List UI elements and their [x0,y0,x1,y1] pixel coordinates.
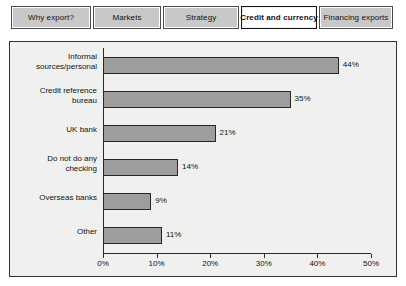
x-tick [157,254,158,258]
x-tick [264,254,265,258]
x-tick [210,254,211,258]
bar-value-label: 35% [295,94,311,103]
bar-row: Informalsources/personal44% [10,50,398,84]
bar-row: Overseas banks9% [10,186,398,220]
chart-panel: 0%10%20%30%40%50% Informalsources/person… [9,41,397,277]
x-tick-label: 40% [309,259,325,268]
bar-row: Do not do anychecking14% [10,152,398,186]
bar-value-label: 11% [166,230,181,239]
x-tick-label: 20% [202,259,218,268]
tab-why-export[interactable]: Why export? [12,7,90,28]
x-tick [317,254,318,258]
bar [103,91,291,108]
tab-credit-and-currency[interactable]: Credit and currency [242,7,316,28]
tab-label: Why export? [28,13,74,22]
x-tick [103,254,104,258]
bar-row: Other11% [10,220,398,254]
tab-bar: Why export? Markets Strategy Credit and … [0,0,406,34]
category-label: Other [0,227,97,237]
bar [103,227,162,244]
x-tick-label: 50% [363,259,379,268]
category-label: Informalsources/personal [0,52,97,72]
bar-chart: 0%10%20%30%40%50% Informalsources/person… [10,42,398,278]
bar-value-label: 44% [343,60,359,69]
tab-financing-exports[interactable]: Financing exports [320,7,392,28]
tab-markets[interactable]: Markets [94,7,160,28]
bar-value-label: 9% [155,196,167,205]
bar [103,159,178,176]
tab-label: Credit and currency [240,13,317,22]
bar [103,125,216,142]
category-label: Do not do anychecking [0,154,97,174]
x-tick-label: 30% [256,259,272,268]
bar-value-label: 21% [220,128,236,137]
tab-strategy[interactable]: Strategy [164,7,238,28]
bar-row: UK bank21% [10,118,398,152]
tab-label: Strategy [186,13,217,22]
tab-label: Markets [112,13,141,22]
bar [103,57,339,74]
category-label: UK bank [0,125,97,135]
bar-row: Credit referencebureau35% [10,84,398,118]
bar [103,193,151,210]
tab-label: Financing exports [324,13,389,22]
x-tick-label: 0% [97,259,109,268]
x-tick [371,254,372,258]
bar-value-label: 14% [182,162,198,171]
category-label: Credit referencebureau [0,86,97,106]
category-label: Overseas banks [0,193,97,203]
x-tick-label: 10% [149,259,165,268]
